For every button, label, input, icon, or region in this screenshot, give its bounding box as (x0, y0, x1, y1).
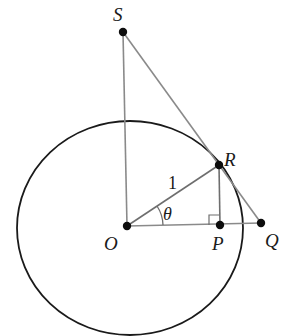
point-R (215, 161, 223, 169)
point-O (123, 222, 131, 230)
point-Q (257, 219, 265, 227)
label-R: R (223, 149, 236, 170)
label-theta: θ (163, 204, 172, 224)
segment-RP (219, 165, 220, 225)
unit-circle-diagram: S R O P Q 1 θ (0, 0, 284, 336)
label-radius: 1 (168, 173, 177, 193)
point-P (216, 221, 224, 229)
label-P: P (211, 233, 224, 254)
segment-SO (123, 32, 127, 226)
segment-SQ (123, 32, 261, 223)
label-O: O (104, 233, 118, 254)
label-Q: Q (265, 230, 279, 251)
point-S (119, 28, 127, 36)
label-S: S (113, 4, 123, 25)
segment-OQ (127, 223, 261, 226)
